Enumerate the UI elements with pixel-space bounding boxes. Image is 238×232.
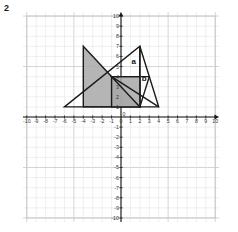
x-tick-2: 2	[138, 118, 141, 124]
y-tick-6: 6	[116, 53, 119, 59]
origin-label: 0	[123, 111, 126, 117]
label-a: a	[131, 57, 136, 66]
axis-layer	[23, 12, 219, 222]
y-tick-4: 4	[116, 74, 119, 80]
y-tick--9: -9	[114, 205, 119, 211]
x-tick-4: 4	[157, 118, 160, 124]
x-tick--6: -6	[62, 118, 67, 124]
y-tick-3: 3	[116, 84, 119, 90]
label-b: b	[142, 74, 147, 83]
coordinate-plane: -10-9-8-7-6-5-4-3-2-1012345678910-10-9-8…	[23, 12, 219, 222]
x-tick-0: 0	[120, 118, 123, 124]
y-tick--1: -1	[114, 124, 119, 130]
x-tick--4: -4	[81, 118, 86, 124]
y-tick--3: -3	[114, 144, 119, 150]
y-tick--2: -2	[114, 134, 119, 140]
y-tick-9: 9	[116, 23, 119, 29]
y-tick--5: -5	[114, 164, 119, 170]
x-tick-1: 1	[129, 118, 132, 124]
y-tick-5: 5	[116, 64, 119, 70]
y-tick-2: 2	[116, 94, 119, 100]
y-tick--7: -7	[114, 185, 119, 191]
x-tick--3: -3	[90, 118, 95, 124]
x-tick-9: 9	[204, 118, 207, 124]
x-tick--10: -10	[23, 118, 31, 124]
x-tick--9: -9	[34, 118, 39, 124]
y-tick-10: 10	[113, 13, 119, 19]
x-tick-7: 7	[186, 118, 189, 124]
y-tick-1: 1	[116, 104, 119, 110]
y-tick--4: -4	[114, 154, 119, 160]
x-tick-3: 3	[148, 118, 151, 124]
x-tick-6: 6	[176, 118, 179, 124]
coordinate-plane-svg: -10-9-8-7-6-5-4-3-2-1012345678910-10-9-8…	[23, 12, 219, 222]
y-tick--6: -6	[114, 175, 119, 181]
y-tick-8: 8	[116, 33, 119, 39]
y-tick-7: 7	[116, 43, 119, 49]
y-tick--10: -10	[111, 215, 119, 221]
x-tick--5: -5	[72, 118, 77, 124]
x-tick--2: -2	[100, 118, 105, 124]
x-tick-8: 8	[195, 118, 198, 124]
x-tick--8: -8	[43, 118, 48, 124]
x-tick-5: 5	[167, 118, 170, 124]
x-tick--7: -7	[53, 118, 58, 124]
x-tick-10: 10	[212, 118, 218, 124]
y-tick--8: -8	[114, 195, 119, 201]
question-number: 2	[4, 3, 9, 13]
